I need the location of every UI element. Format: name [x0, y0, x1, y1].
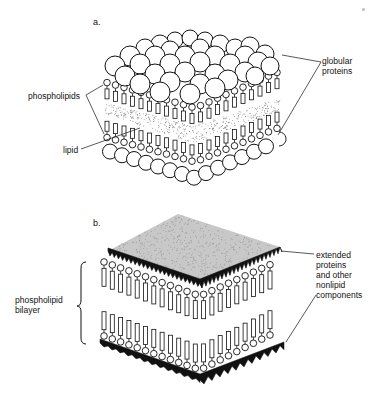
label-bilayer-line1: phospholipid [15, 295, 63, 305]
label-extended-line2: proteins [316, 260, 362, 270]
label-extended-line5: components [316, 290, 362, 300]
label-extended-line1: extended [316, 250, 362, 260]
label-extended-line4: nonlipid [316, 280, 362, 290]
label-phospholipid-bilayer: phospholipid bilayer [15, 295, 63, 315]
label-extended-proteins: extended proteins and other nonlipid com… [316, 250, 362, 300]
label-bilayer-line2: bilayer [15, 305, 63, 315]
label-extended-line3: and other [316, 270, 362, 280]
panel-b-membrane-diagram [0, 0, 385, 400]
